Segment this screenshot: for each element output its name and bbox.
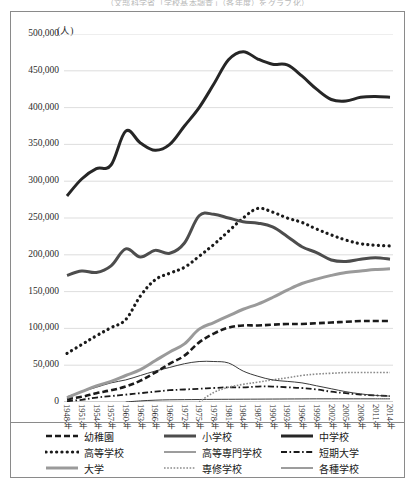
legend-grid: 幼稚園小学校中学校高等学校高等専門学校短期大学大学専修学校各種学校 (11, 428, 404, 476)
legend-label: 各種学校 (319, 461, 359, 476)
legend-line-icon (45, 431, 79, 441)
y-axis-tick-labels: 500,000450,000400,000350,000300,000250,0… (11, 34, 59, 402)
series-line (67, 52, 390, 196)
legend-item-1[interactable]: 小学校 (163, 429, 281, 444)
legend: 幼稚園小学校中学校高等学校高等専門学校短期大学大学専修学校各種学校 (11, 422, 404, 477)
legend-item-8[interactable]: 各種学校 (280, 461, 398, 476)
legend-line-icon (45, 463, 79, 473)
y-tick-label: 200,000 (28, 250, 59, 260)
series-line (67, 208, 390, 353)
series-canvas (64, 34, 393, 402)
source-caption: （文部科学省「学校基本調査」（各年度）をグラフ化） (0, 0, 415, 6)
plot-area (64, 34, 393, 402)
y-tick-label: 500,000 (28, 29, 59, 39)
legend-item-7[interactable]: 専修学校 (163, 461, 281, 476)
legend-item-6[interactable]: 大学 (45, 461, 163, 476)
legend-item-2[interactable]: 中学校 (280, 429, 398, 444)
y-tick-label: 150,000 (28, 287, 59, 297)
legend-line-icon (163, 463, 197, 473)
y-tick-label: 300,000 (28, 176, 59, 186)
series-line (67, 213, 390, 275)
legend-label: 中学校 (319, 429, 349, 444)
legend-line-icon (280, 431, 314, 441)
legend-line-icon (163, 431, 197, 441)
y-tick-label: 250,000 (28, 213, 59, 223)
chart-area: (人) 500,000450,000400,000350,000300,0002… (11, 12, 404, 422)
y-tick-label: 100,000 (28, 324, 59, 334)
y-tick-label: 400,000 (28, 103, 59, 113)
legend-line-icon (163, 447, 197, 457)
legend-item-3[interactable]: 高等学校 (45, 445, 163, 460)
legend-label: 高等学校 (84, 445, 124, 460)
y-tick-label: 350,000 (28, 140, 59, 150)
figure-frame: (人) 500,000450,000400,000350,000300,0002… (10, 11, 405, 478)
legend-line-icon (280, 447, 314, 457)
legend-label: 高等専門学校 (202, 445, 262, 460)
legend-label: 大学 (84, 461, 104, 476)
legend-line-icon (45, 447, 79, 457)
y-tick-label: 450,000 (28, 66, 59, 76)
figure-root: （文部科学省「学校基本調査」（各年度）をグラフ化） (人) 500,000450… (0, 0, 415, 491)
series-line (67, 269, 390, 398)
legend-label: 短期大学 (319, 445, 359, 460)
legend-label: 幼稚園 (84, 429, 114, 444)
legend-item-0[interactable]: 幼稚園 (45, 429, 163, 444)
legend-label: 専修学校 (202, 461, 242, 476)
legend-label: 小学校 (202, 429, 232, 444)
legend-item-5[interactable]: 短期大学 (280, 445, 398, 460)
legend-item-4[interactable]: 高等専門学校 (163, 445, 281, 460)
legend-line-icon (280, 463, 314, 473)
y-tick-label: 0 (54, 397, 59, 407)
y-tick-label: 50,000 (33, 360, 59, 370)
